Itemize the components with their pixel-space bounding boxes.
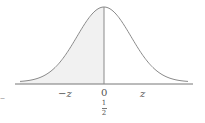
left-dash: –: [0, 93, 5, 103]
shaded-area: [20, 7, 104, 84]
fraction-denominator: 2: [102, 109, 106, 117]
tick-label-neg-z: −z: [58, 89, 72, 99]
area-label-half: 1 2: [101, 100, 107, 117]
fraction-numerator: 1: [102, 99, 106, 107]
tick-label-zero: 0: [101, 88, 107, 98]
tick-label-pos-z: z: [140, 89, 145, 99]
